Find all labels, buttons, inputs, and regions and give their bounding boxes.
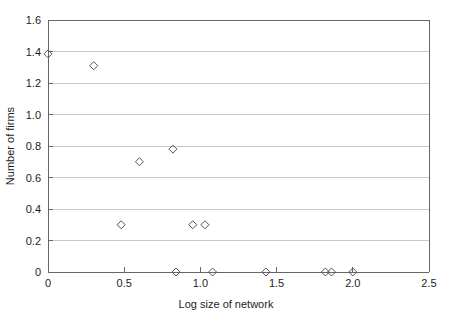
x-tick-label: 2.0 xyxy=(345,277,360,289)
x-tick-label: 2.5 xyxy=(421,277,436,289)
chart-canvas: 00.51.01.52.02.5 00.20.40.60.81.01.21.41… xyxy=(0,0,452,321)
x-axis-title: Log size of network xyxy=(179,298,274,310)
y-axis-title: Number of firms xyxy=(4,106,16,185)
x-tick-label: 0 xyxy=(45,277,51,289)
scatter-plot-figure: 00.51.01.52.02.5 00.20.40.60.81.01.21.41… xyxy=(0,0,452,321)
y-tick-label: 0 xyxy=(35,266,41,278)
x-tick-label: 1.5 xyxy=(269,277,284,289)
y-tick-label: 1.4 xyxy=(26,46,41,58)
y-tick-label: 1.2 xyxy=(26,77,41,89)
y-tick-label: 0.2 xyxy=(26,235,41,247)
chart-background xyxy=(0,0,452,321)
y-tick-label: 0.6 xyxy=(26,172,41,184)
y-tick-label: 0.4 xyxy=(26,203,41,215)
y-tick-label: 0.8 xyxy=(26,140,41,152)
y-tick-label: 1.6 xyxy=(26,14,41,26)
y-tick-label: 1.0 xyxy=(26,109,41,121)
x-tick-label: 1.0 xyxy=(193,277,208,289)
x-tick-label: 0.5 xyxy=(117,277,132,289)
